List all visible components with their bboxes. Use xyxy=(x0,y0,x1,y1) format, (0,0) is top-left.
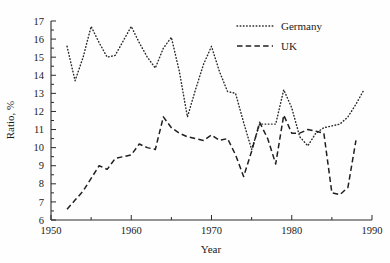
legend-label-uk: UK xyxy=(281,40,297,52)
y-tick-label: 12 xyxy=(34,106,45,117)
y-axis-ticks: 67891011121314151617 xyxy=(34,16,57,226)
series-line-uk xyxy=(67,115,356,209)
y-tick-label: 15 xyxy=(34,52,45,63)
x-axis-ticks: 19501960197019801990 xyxy=(41,215,383,236)
y-tick-label: 8 xyxy=(39,178,44,189)
x-tick-label: 1950 xyxy=(41,225,62,236)
line-chart: 67891011121314151617 1950196019701980199… xyxy=(0,0,390,263)
x-tick-label: 1970 xyxy=(201,225,222,236)
x-tick-label: 1960 xyxy=(121,225,142,236)
legend-label-germany: Germany xyxy=(281,20,322,32)
y-tick-label: 10 xyxy=(34,142,45,153)
chart-figure: 67891011121314151617 1950196019701980199… xyxy=(0,0,390,263)
y-tick-label: 11 xyxy=(34,124,44,135)
series-line-germany xyxy=(67,26,364,149)
y-tick-label: 16 xyxy=(34,34,45,45)
y-tick-label: 7 xyxy=(39,197,44,208)
y-tick-label: 13 xyxy=(34,88,45,99)
chart-legend: Germany UK xyxy=(237,20,322,52)
y-tick-label: 6 xyxy=(39,215,44,226)
x-tick-label: 1980 xyxy=(281,225,302,236)
y-axis-title: Ratio, % xyxy=(4,101,16,140)
y-tick-label: 14 xyxy=(34,70,45,81)
y-tick-label: 17 xyxy=(34,16,45,27)
x-axis-title: Year xyxy=(201,243,222,255)
axes xyxy=(51,21,372,220)
x-tick-label: 1990 xyxy=(362,225,383,236)
y-tick-label: 9 xyxy=(39,160,44,171)
